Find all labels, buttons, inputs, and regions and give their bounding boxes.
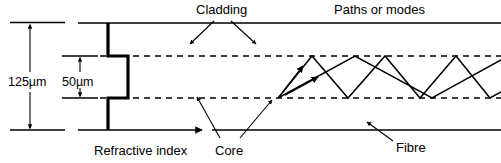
fibre-label: Fibre <box>396 140 426 155</box>
ray-paths <box>278 56 501 98</box>
fibre-diagram: 125µm 50µm Refractive index Cladding Pat… <box>0 0 501 163</box>
fibre-arrow <box>367 122 393 141</box>
core-label: Core <box>215 143 243 158</box>
cladding-arrow-left <box>190 21 214 44</box>
core-arrow-left <box>197 97 220 138</box>
refractive-index-profile <box>78 23 202 130</box>
ray-direction-arrow-steep <box>283 66 303 92</box>
ray-direction-arrow-shallow <box>285 77 318 95</box>
ray-path-high-order-mode <box>278 56 501 98</box>
cladding-arrow-right <box>231 21 256 44</box>
dimension-label-125um: 125µm <box>8 75 46 90</box>
refractive-index-step-curve <box>108 23 128 130</box>
cladding-label: Cladding <box>196 2 247 17</box>
core-arrow-right <box>240 100 272 138</box>
paths-or-modes-label: Paths or modes <box>334 2 425 17</box>
refractive-index-label: Refractive index <box>94 143 187 158</box>
dimension-label-50um: 50µm <box>62 75 94 90</box>
core-boundaries <box>100 56 501 98</box>
